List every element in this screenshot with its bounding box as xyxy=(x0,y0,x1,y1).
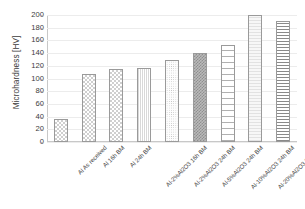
bar xyxy=(82,74,96,142)
bar xyxy=(193,53,207,142)
bar xyxy=(137,68,151,142)
y-tick-mark xyxy=(41,91,44,92)
y-tick-mark xyxy=(41,129,44,130)
x-tick-label: Al 24h BM xyxy=(129,144,154,169)
y-tick-mark xyxy=(41,66,44,67)
gridline xyxy=(47,142,297,143)
y-tick-mark xyxy=(41,142,44,143)
bar xyxy=(109,69,123,142)
bar xyxy=(221,45,235,142)
y-tick-mark xyxy=(41,117,44,118)
x-axis-label-group: Al As receivedAl 16h BMAl 24h BMAl-2%Al2… xyxy=(0,144,305,209)
y-tick-mark xyxy=(41,53,44,54)
bar xyxy=(248,15,262,142)
y-tick-mark xyxy=(41,15,44,16)
y-tick-mark xyxy=(41,79,44,80)
y-tick-mark xyxy=(41,104,44,105)
y-tick-mark xyxy=(41,28,44,29)
y-axis-tick-group: 020406080100120140160180200 xyxy=(20,15,44,142)
microhardness-bar-chart: Microhardness [HV] 020406080100120140160… xyxy=(0,0,305,209)
bar xyxy=(54,119,68,142)
x-tick-label: Al-30%Al2O3 24h BM xyxy=(304,144,305,190)
y-tick-mark xyxy=(41,40,44,41)
bar xyxy=(276,21,290,142)
bar xyxy=(165,60,179,142)
plot-area xyxy=(47,15,297,142)
